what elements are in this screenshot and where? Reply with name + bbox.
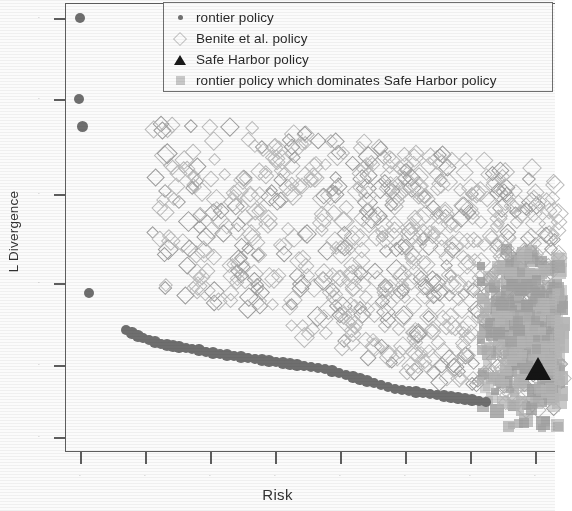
y-axis-tick-label: ·	[33, 95, 45, 103]
y-axis-tick-label: ·	[33, 190, 45, 198]
legend-item: rontier policy	[164, 7, 552, 28]
x-axis-tick-label: ·	[333, 472, 347, 480]
data-point-dominating-frontier	[517, 268, 525, 276]
data-point-dominating-frontier	[552, 394, 567, 409]
x-axis-tick-label: ·	[268, 472, 282, 480]
data-point-dominating-frontier	[526, 403, 538, 415]
y-axis-tick-label: ·	[33, 433, 45, 441]
data-point-dominating-frontier	[551, 419, 564, 432]
data-point-frontier	[481, 397, 491, 407]
square-icon	[164, 76, 196, 85]
legend-item: rontier policy which dominates Safe Harb…	[164, 70, 552, 91]
x-axis-tick	[405, 452, 407, 464]
data-point-frontier	[75, 13, 85, 23]
data-point-dominating-frontier	[477, 331, 486, 340]
diamond-icon	[164, 34, 196, 44]
x-axis-tick-label: ·	[398, 472, 412, 480]
data-point-dominating-frontier	[552, 260, 565, 273]
data-point-dominating-frontier	[531, 316, 540, 325]
y-axis-tick	[54, 365, 65, 367]
x-axis-tick	[145, 452, 147, 464]
data-point-dominating-frontier	[501, 244, 512, 255]
data-point-dominating-frontier	[477, 277, 486, 286]
x-axis-tick	[470, 452, 472, 464]
y-axis-tick-label: ·	[33, 279, 45, 287]
data-point-dominating-frontier	[490, 327, 502, 339]
x-axis-label: Risk	[0, 486, 555, 503]
data-point-dominating-frontier	[513, 325, 524, 336]
legend-item-label: rontier policy which dominates Safe Harb…	[196, 73, 497, 88]
data-point-dominating-frontier	[519, 418, 529, 428]
y-axis-tick	[54, 18, 65, 20]
data-point-dominating-frontier	[493, 373, 506, 386]
dot-icon	[164, 15, 196, 20]
y-axis-tick-label: ·	[33, 14, 45, 22]
x-axis-tick	[535, 452, 537, 464]
data-point-dominating-frontier	[503, 421, 514, 432]
legend-item-label: Benite et al. policy	[196, 31, 308, 46]
data-point-dominating-frontier	[549, 294, 558, 303]
legend: rontier policy Benite et al. policy Safe…	[163, 2, 553, 92]
data-point-dominating-frontier	[538, 298, 549, 309]
data-point-dominating-frontier	[534, 384, 544, 394]
x-axis-tick-label: ·	[528, 472, 542, 480]
data-point-dominating-frontier	[507, 356, 517, 366]
y-axis-tick	[54, 194, 65, 196]
y-axis-tick	[54, 283, 65, 285]
data-point-dominating-frontier	[505, 267, 516, 278]
data-point-frontier	[84, 288, 94, 298]
x-axis-tick-label: ·	[203, 472, 217, 480]
data-point-dominating-frontier	[539, 265, 550, 276]
legend-item: Safe Harbor policy	[164, 49, 552, 70]
data-point-dominating-frontier	[554, 324, 569, 339]
data-point-dominating-frontier	[538, 424, 546, 432]
x-axis-tick	[340, 452, 342, 464]
data-point-dominating-frontier	[496, 298, 509, 311]
data-point-dominating-frontier	[477, 262, 485, 270]
data-point-dominating-frontier	[533, 335, 540, 342]
x-axis-tick-label: ·	[463, 472, 477, 480]
x-axis-tick	[275, 452, 277, 464]
y-axis-tick	[54, 437, 65, 439]
data-point-dominating-frontier	[477, 377, 484, 384]
data-point-dominating-frontier	[532, 275, 541, 284]
data-point-dominating-frontier	[506, 386, 513, 393]
data-point-dominating-frontier	[517, 247, 531, 261]
data-point-dominating-frontier	[505, 336, 516, 347]
y-axis-label: L Divergence	[6, 167, 21, 297]
x-axis-tick-label: ·	[138, 472, 152, 480]
y-axis-tick-label: ·	[33, 361, 45, 369]
triangle-icon	[164, 55, 196, 65]
data-point-dominating-frontier	[495, 278, 503, 286]
legend-item-label: rontier policy	[196, 10, 274, 25]
x-axis-tick-label: ·	[73, 472, 87, 480]
data-point-dominating-frontier	[515, 283, 528, 296]
data-point-dominating-frontier	[554, 339, 568, 353]
x-axis-tick	[210, 452, 212, 464]
y-axis-tick	[54, 99, 65, 101]
data-point-dominating-frontier	[481, 342, 493, 354]
legend-item: Benite et al. policy	[164, 28, 552, 49]
data-point-dominating-frontier	[531, 287, 540, 296]
x-axis-tick	[80, 452, 82, 464]
data-point-safe-harbor	[525, 357, 551, 380]
data-point-dominating-frontier	[532, 344, 541, 353]
legend-item-label: Safe Harbor policy	[196, 52, 309, 67]
data-point-dominating-frontier	[521, 300, 533, 312]
data-point-dominating-frontier	[538, 327, 546, 335]
data-point-dominating-frontier	[507, 397, 520, 410]
data-point-dominating-frontier	[480, 308, 490, 318]
